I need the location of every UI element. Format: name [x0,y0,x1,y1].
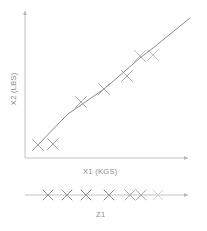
scatter-marker [99,84,110,95]
scatter-marker [33,140,44,151]
figure-canvas [0,0,207,231]
y-axis-label: X2 (LBS) [10,61,18,117]
main-plot-axes [25,11,188,158]
fitted-curve [33,18,190,150]
z1-axis-group [25,190,188,200]
scatter-marker [148,50,159,61]
scatter-marker [122,71,133,82]
z1-axis-label: Z1 [96,211,105,219]
scatter-diagram-figure: X1 (KGS) X2 (LBS) Z1 [0,0,207,231]
scatter-markers [33,50,159,151]
x-axis-label: X1 (KGS) [83,168,118,176]
scatter-marker [135,51,146,62]
scatter-marker [48,139,59,150]
